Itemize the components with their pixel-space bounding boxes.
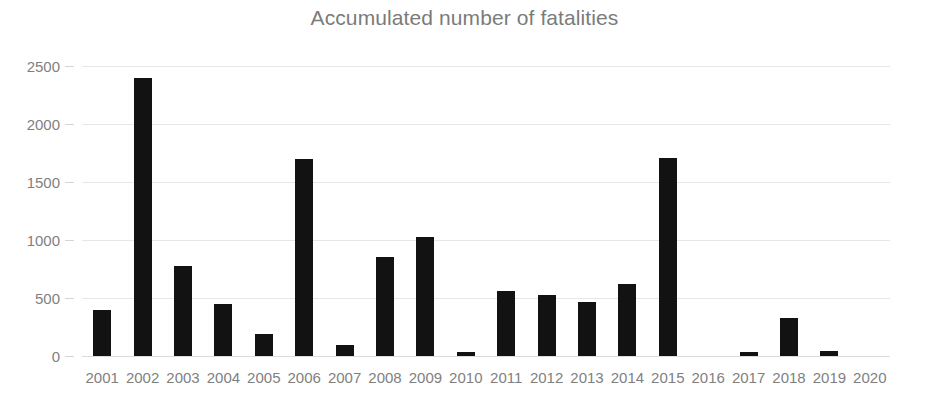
bar-2010[interactable] [457, 352, 475, 356]
y-tick-mark-0 [65, 356, 74, 357]
x-axis: 2001200220032004200520062007200820092010… [82, 370, 890, 394]
chart-title: Accumulated number of fatalities [0, 6, 929, 30]
x-tick-label-2019: 2019 [808, 370, 850, 385]
bar-2014[interactable] [618, 284, 636, 356]
bar-2009[interactable] [416, 237, 434, 356]
y-tick-label-0: 0 [52, 349, 60, 364]
y-tick-label-2000: 2000 [27, 117, 60, 132]
x-tick-label-2003: 2003 [162, 370, 204, 385]
x-tick-label-2011: 2011 [485, 370, 527, 385]
x-tick-label-2009: 2009 [404, 370, 446, 385]
y-tick-mark-1500 [65, 182, 74, 183]
x-tick-label-2016: 2016 [687, 370, 729, 385]
bar-chart-figure: Accumulated number of fatalities 0500100… [0, 0, 929, 413]
bar-2013[interactable] [578, 302, 596, 356]
bar-2002[interactable] [134, 78, 152, 356]
bars-layer [82, 66, 890, 356]
y-axis: 05001000150020002500 [0, 0, 82, 413]
y-tick-mark-1000 [65, 240, 74, 241]
y-tick-label-500: 500 [35, 291, 60, 306]
x-tick-label-2002: 2002 [122, 370, 164, 385]
x-tick-label-2020: 2020 [849, 370, 891, 385]
bar-2015[interactable] [659, 158, 677, 356]
x-tick-label-2005: 2005 [243, 370, 285, 385]
y-tick-label-1000: 1000 [27, 233, 60, 248]
x-tick-label-2008: 2008 [364, 370, 406, 385]
x-tick-label-2013: 2013 [566, 370, 608, 385]
bar-2004[interactable] [214, 304, 232, 356]
y-tick-label-2500: 2500 [27, 59, 60, 74]
y-tick-mark-2000 [65, 124, 74, 125]
bar-2003[interactable] [174, 266, 192, 356]
bar-2019[interactable] [820, 351, 838, 356]
bar-2005[interactable] [255, 334, 273, 356]
x-tick-label-2004: 2004 [202, 370, 244, 385]
y-tick-label-1500: 1500 [27, 175, 60, 190]
x-tick-label-2014: 2014 [606, 370, 648, 385]
bar-2017[interactable] [740, 352, 758, 356]
x-tick-label-2017: 2017 [728, 370, 770, 385]
x-tick-label-2010: 2010 [445, 370, 487, 385]
y-tick-mark-2500 [65, 66, 74, 67]
bar-2006[interactable] [295, 159, 313, 356]
gridline-0 [82, 356, 890, 357]
bar-2001[interactable] [93, 310, 111, 356]
plot-area [82, 66, 890, 356]
x-tick-label-2018: 2018 [768, 370, 810, 385]
x-tick-label-2001: 2001 [81, 370, 123, 385]
x-tick-label-2006: 2006 [283, 370, 325, 385]
y-tick-mark-500 [65, 298, 74, 299]
bar-2012[interactable] [538, 295, 556, 356]
bar-2008[interactable] [376, 257, 394, 356]
bar-2007[interactable] [336, 345, 354, 356]
x-tick-label-2012: 2012 [526, 370, 568, 385]
bar-2011[interactable] [497, 291, 515, 356]
bar-2018[interactable] [780, 318, 798, 356]
x-tick-label-2007: 2007 [324, 370, 366, 385]
x-tick-label-2015: 2015 [647, 370, 689, 385]
